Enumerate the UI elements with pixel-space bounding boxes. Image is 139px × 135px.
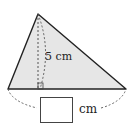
- base-brace-right: [101, 89, 126, 108]
- base-unit-label: cm: [79, 102, 97, 116]
- height-label: 5 cm: [45, 50, 73, 63]
- base-answer-box[interactable]: [40, 97, 73, 123]
- base-brace-left: [8, 89, 37, 108]
